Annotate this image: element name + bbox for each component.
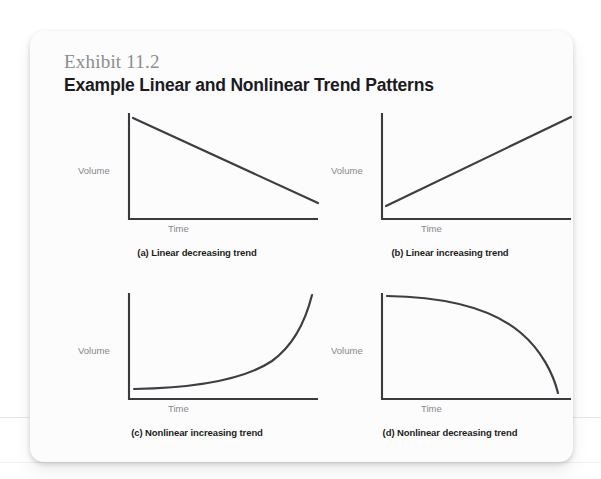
chart-panel-d: Volume Time (d) Nonlinear decreasing tre… bbox=[325, 283, 575, 451]
chart-panel-a: Volume Time (a) Linear decreasing trend bbox=[72, 103, 322, 271]
chart-panel-c: Volume Time (c) Nonlinear increasing tre… bbox=[72, 283, 322, 451]
exhibit-title: Example Linear and Nonlinear Trend Patte… bbox=[64, 75, 434, 96]
exhibit-number: Exhibit 11.2 bbox=[64, 51, 160, 73]
trend-curve-d bbox=[387, 296, 558, 393]
chart-b-caption: (b) Linear increasing trend bbox=[325, 247, 575, 258]
chart-a-caption: (a) Linear decreasing trend bbox=[72, 247, 322, 258]
chart-a-x-axis-label: Time bbox=[168, 223, 189, 234]
chart-c-y-axis-label: Volume bbox=[78, 345, 110, 356]
chart-d-x-axis-label: Time bbox=[421, 403, 442, 414]
chart-c-x-axis-label: Time bbox=[168, 403, 189, 414]
chart-panel-b: Volume Time (b) Linear increasing trend bbox=[325, 103, 575, 271]
trend-curve-c bbox=[134, 295, 312, 389]
chart-b-y-axis-label: Volume bbox=[331, 165, 363, 176]
chart-b-x-axis-label: Time bbox=[421, 223, 442, 234]
exhibit-card: Exhibit 11.2 Example Linear and Nonlinea… bbox=[30, 31, 573, 462]
page-divider-rule-lower bbox=[0, 462, 601, 463]
trend-line-b bbox=[386, 117, 571, 206]
trend-line-a bbox=[133, 118, 318, 203]
chart-d-y-axis-label: Volume bbox=[331, 345, 363, 356]
chart-a-y-axis-label: Volume bbox=[78, 165, 110, 176]
chart-d-caption: (d) Nonlinear decreasing trend bbox=[325, 427, 575, 438]
chart-c-caption: (c) Nonlinear increasing trend bbox=[72, 427, 322, 438]
